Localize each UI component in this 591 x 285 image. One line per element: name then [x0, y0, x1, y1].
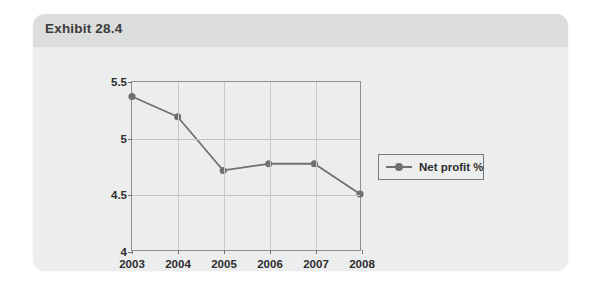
x-tick-mark: [178, 250, 179, 254]
gridline-vertical: [178, 82, 179, 250]
x-axis-tick-label: 2004: [165, 258, 191, 270]
x-axis-tick-label: 2005: [211, 258, 237, 270]
legend-label-net-profit: Net profit %: [419, 161, 484, 173]
x-axis-tick-label: 2008: [349, 258, 375, 270]
gridline-vertical: [270, 82, 271, 250]
x-axis-tick-label: 2006: [257, 258, 283, 270]
x-tick-mark: [316, 250, 317, 254]
series-line: [132, 97, 360, 194]
x-axis-tick-label: 2003: [119, 258, 145, 270]
exhibit-title: Exhibit 28.4: [45, 21, 122, 36]
x-tick-mark: [224, 250, 225, 254]
series-net-profit: [132, 82, 360, 250]
y-axis-tick-label: 4.5: [111, 189, 127, 201]
x-tick-mark: [270, 250, 271, 254]
y-axis-tick-label: 5: [121, 133, 127, 145]
gridline-horizontal: [132, 139, 360, 140]
y-tick-mark: [128, 139, 132, 140]
line-chart: 44.555.5200320042005200620072008 Net pro…: [33, 47, 568, 270]
y-tick-mark: [128, 195, 132, 196]
gridline-vertical: [224, 82, 225, 250]
chart-legend: Net profit %: [378, 154, 484, 180]
data-point: [356, 190, 363, 197]
data-point: [265, 160, 272, 167]
x-tick-mark: [132, 250, 133, 254]
gridline-vertical: [316, 82, 317, 250]
y-axis-tick-label: 5.5: [111, 76, 127, 88]
data-point: [128, 93, 135, 100]
x-axis-tick-label: 2007: [303, 258, 329, 270]
legend-marker-icon: [386, 162, 412, 172]
x-tick-mark: [362, 250, 363, 254]
gridline-horizontal: [132, 195, 360, 196]
y-axis-tick-label: 4: [121, 246, 127, 258]
plot-area: 44.555.5200320042005200620072008: [131, 81, 361, 251]
exhibit-card: Exhibit 28.4 44.555.52003200420052006200…: [33, 14, 568, 270]
y-tick-mark: [128, 82, 132, 83]
